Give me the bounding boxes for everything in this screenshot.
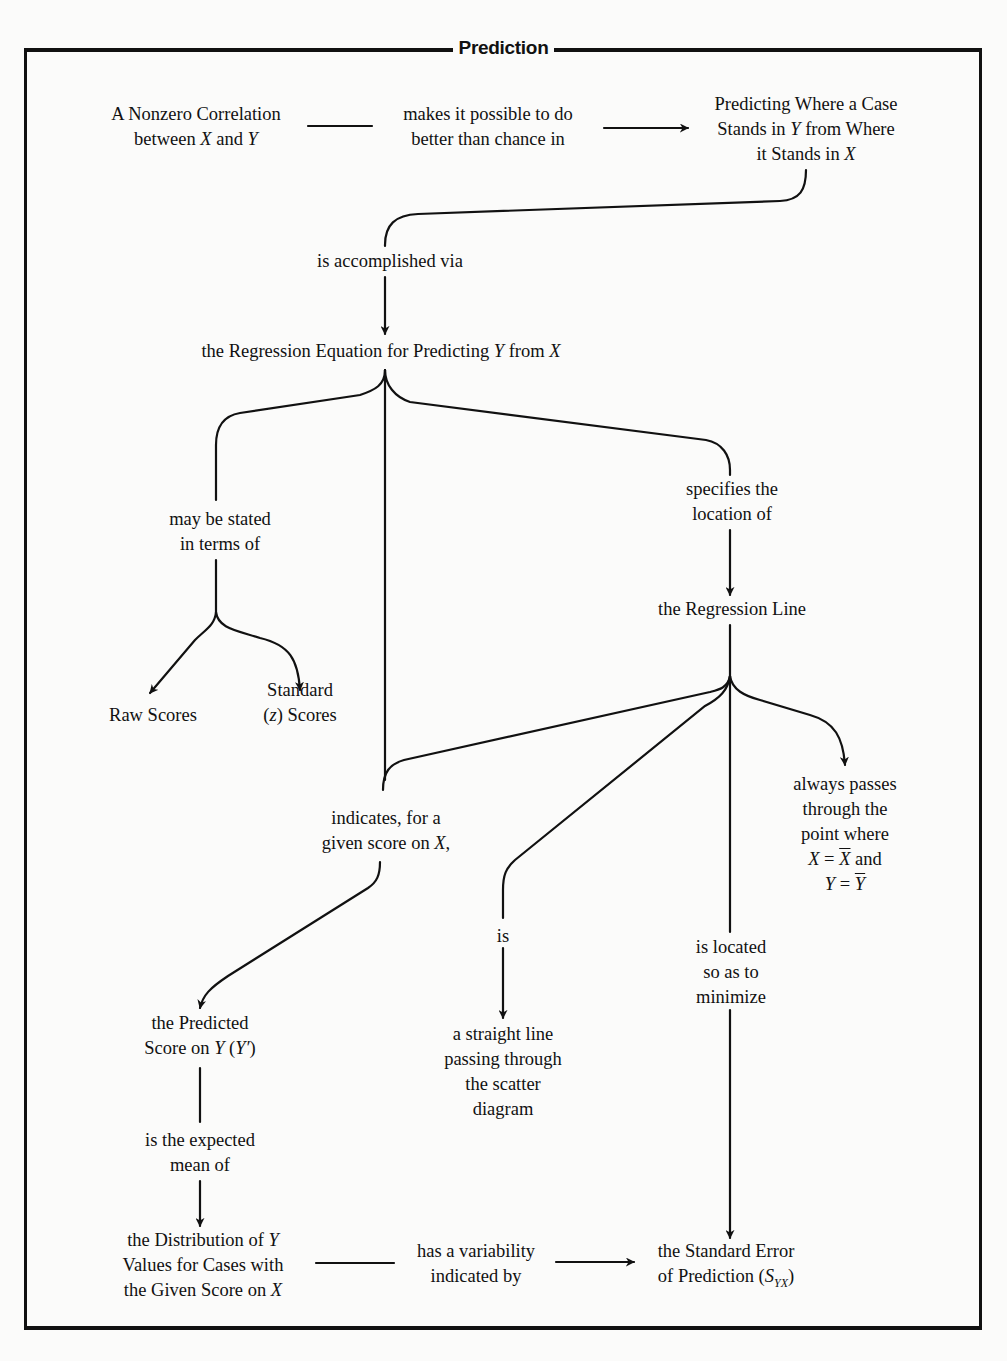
node-straight-line: a straight line passing through the scat… xyxy=(444,1022,562,1122)
node-indicates: indicates, for a given score on X, xyxy=(322,806,450,856)
node-regression-line: the Regression Line xyxy=(658,597,806,622)
arrow-to-raw-scores xyxy=(150,612,216,693)
arrow-line-to-always-passes xyxy=(730,676,845,765)
node-may-be-stated: may be stated in terms of xyxy=(169,507,271,557)
connector-equation-left-branch xyxy=(216,370,385,500)
node-standard-error: the Standard Error of Prediction (SYX) xyxy=(658,1239,795,1296)
connector-predicting-to-accomplished xyxy=(385,170,806,246)
node-nonzero-correlation: A Nonzero Correlation between X and Y xyxy=(111,102,281,152)
node-always-passes: always passes through the point where X … xyxy=(793,772,896,897)
node-distribution: the Distribution of Y Values for Cases w… xyxy=(123,1228,284,1303)
node-accomplished-via: is accomplished via xyxy=(317,249,463,274)
node-is-located: is located so as to minimize xyxy=(696,935,766,1010)
arrow-indicates-to-predicted xyxy=(200,862,380,1008)
node-makes-possible: makes it possible to do better than chan… xyxy=(403,102,573,152)
between-x-and-y-line: between X and Y xyxy=(111,127,281,152)
node-predicted-score: the Predicted Score on Y (Y′) xyxy=(144,1011,255,1061)
connector-equation-right-branch xyxy=(385,370,730,475)
node-raw-scores: Raw Scores xyxy=(109,703,197,728)
node-is: is xyxy=(497,924,509,949)
connector-line-to-indicates xyxy=(383,676,730,790)
node-has-variability: has a variability indicated by xyxy=(417,1239,535,1289)
node-regression-equation: the Regression Equation for Predicting Y… xyxy=(201,339,560,364)
node-expected-mean: is the expected mean of xyxy=(145,1128,255,1178)
node-specifies-location: specifies the location of xyxy=(686,477,778,527)
node-predicting-where: Predicting Where a Case Stands in Y from… xyxy=(714,92,897,167)
node-standard-scores: Standard (z) Scores xyxy=(263,678,336,728)
